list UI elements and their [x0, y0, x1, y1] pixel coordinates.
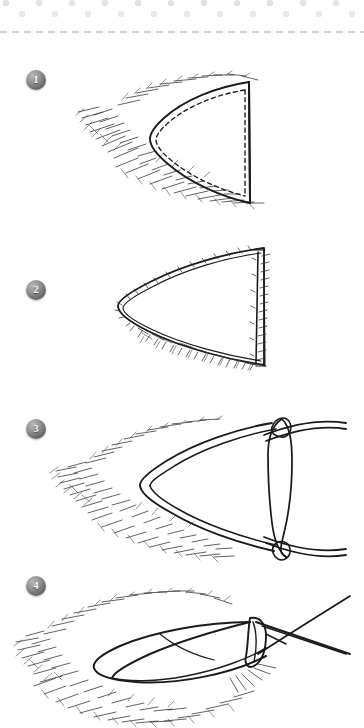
dashed-cut-line-icon [0, 31, 364, 33]
step-4: 4 [0, 570, 364, 728]
step-2-illustration [56, 228, 306, 388]
step-badge-3: 3 [26, 419, 46, 439]
step-badge-2: 2 [26, 280, 46, 300]
step-3-illustration [40, 405, 350, 570]
step-badge-4: 4 [26, 576, 46, 596]
step-badge-1: 1 [26, 70, 46, 90]
step-3: 3 [0, 405, 364, 570]
step-1-illustration [56, 60, 296, 220]
step-1: 1 [0, 60, 364, 220]
step-4-illustration [10, 574, 364, 728]
step-2: 2 [0, 228, 364, 388]
dotted-decorative-band [0, 0, 364, 32]
